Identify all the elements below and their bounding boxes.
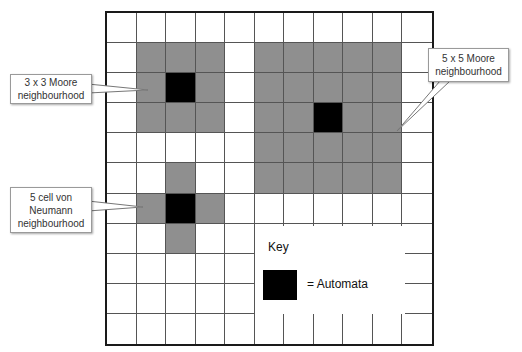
pointer-vonneumann <box>88 201 143 211</box>
pointer-moore3 <box>88 84 148 93</box>
callout-5x5-moore: 5 x 5 Moore neighbourhood <box>428 48 509 82</box>
callout-3x3-line-1: 3 x 3 Moore <box>11 76 91 89</box>
callout-3x3-line-2: neighbourhood <box>11 89 91 102</box>
callout-3x3-moore: 3 x 3 Moore neighbourhood <box>10 74 92 104</box>
callout-von-neumann: 5 cell von Neumann neighbourhood <box>10 187 92 233</box>
callout-vn-line-3: neighbourhood <box>11 217 91 230</box>
automata-swatch-icon <box>263 270 297 300</box>
callout-vn-line-1: 5 cell von <box>11 191 91 204</box>
callout-5x5-line-2: neighbourhood <box>429 65 508 78</box>
callout-5x5-line-1: 5 x 5 Moore <box>429 52 508 65</box>
pointer-moore5 <box>397 81 450 131</box>
key-title: Key <box>268 240 289 254</box>
key-automata-label: = Automata <box>307 277 368 291</box>
callout-vn-line-2: Neumann <box>11 204 91 217</box>
legend-key: Key = Automata <box>255 226 405 314</box>
